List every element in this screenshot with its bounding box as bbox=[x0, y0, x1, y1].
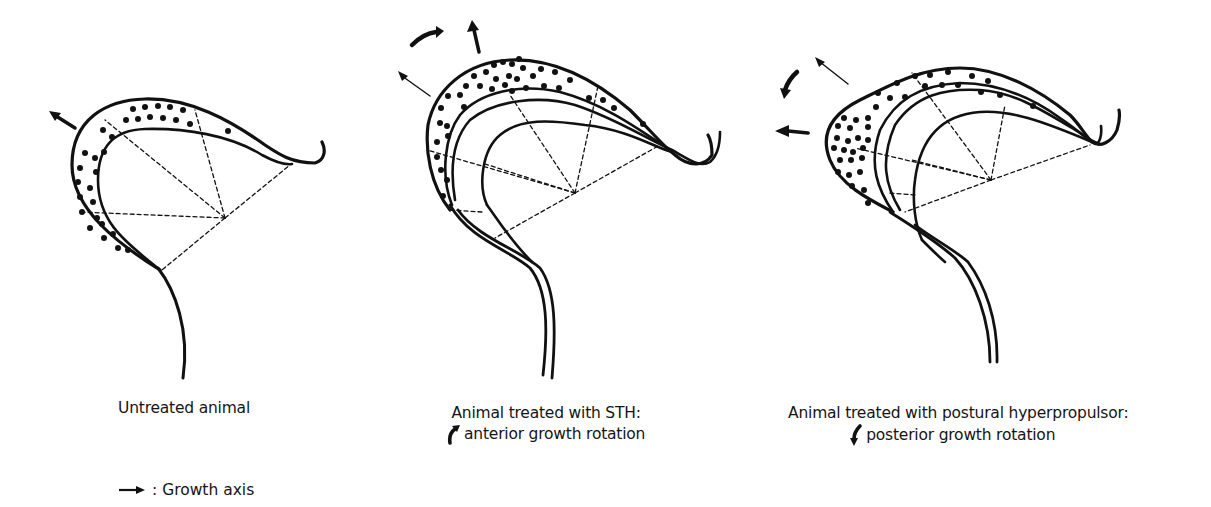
caption-sth-title: Animal treated with STH: bbox=[447, 403, 645, 423]
growth-axis-arrow-icon bbox=[467, 20, 479, 52]
curved-arrow-clockwise-icon bbox=[447, 423, 461, 445]
caption-hyperpropulsor: Animal treated with postural hyperpropul… bbox=[788, 403, 1128, 447]
arrow-right-icon bbox=[118, 485, 146, 495]
posterior-rotation-arrow-icon bbox=[780, 72, 797, 99]
original-growth-axis-arrow-icon bbox=[398, 71, 430, 96]
caption-hyperpropulsor-title: Animal treated with postural hyperpropul… bbox=[788, 403, 1128, 423]
panel-untreated bbox=[49, 99, 324, 378]
caption-sth-subline: anterior growth rotation bbox=[447, 423, 645, 445]
caption-sth-rotation: anterior growth rotation bbox=[464, 424, 645, 444]
legend-label: : Growth axis bbox=[152, 481, 254, 499]
caption-untreated: Untreated animal bbox=[118, 398, 250, 418]
curved-arrow-counterclockwise-icon bbox=[849, 423, 863, 447]
growth-axis-arrow-icon bbox=[775, 125, 808, 137]
caption-hyperpropulsor-rotation: posterior growth rotation bbox=[866, 425, 1055, 445]
panel-hyperpropulsor bbox=[775, 57, 1120, 362]
anterior-rotation-arrow-icon bbox=[412, 26, 444, 45]
caption-untreated-title: Untreated animal bbox=[118, 398, 250, 418]
caption-sth: Animal treated with STH: anterior growth… bbox=[447, 403, 645, 445]
caption-hyperpropulsor-subline: posterior growth rotation bbox=[776, 423, 1128, 447]
original-growth-axis-arrow-icon bbox=[815, 57, 848, 84]
growth-axis-arrow-icon bbox=[49, 111, 75, 128]
panel-sth bbox=[398, 20, 720, 378]
legend: : Growth axis bbox=[118, 481, 254, 499]
figure-drawing bbox=[0, 0, 1211, 400]
